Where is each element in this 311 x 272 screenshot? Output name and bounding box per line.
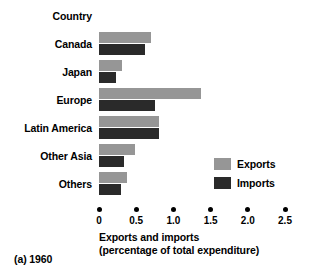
category-label-others: Others — [0, 179, 92, 190]
category-label-other-asia: Other Asia — [0, 151, 92, 162]
legend-label-imports: Imports — [237, 177, 275, 189]
bar-exports-other-asia — [99, 144, 135, 155]
x-axis-tick-label: 0.5 — [121, 215, 151, 227]
bar-exports-others — [99, 172, 127, 183]
x-axis-tick-dot — [245, 207, 250, 212]
legend-swatch-imports-icon — [214, 177, 231, 189]
bar-imports-latin-america — [99, 128, 159, 139]
x-axis-tick-dot — [208, 207, 213, 212]
x-axis-title: Exports and imports (percentage of total… — [99, 231, 309, 256]
chart-legend: Exports Imports — [214, 156, 275, 194]
x-axis-tick-label: 2.5 — [270, 215, 300, 227]
bar-imports-japan — [99, 72, 116, 83]
figure-caption: (a) 1960 — [14, 253, 52, 265]
bar-exports-latin-america — [99, 116, 159, 127]
axis-label-country: Country — [0, 11, 92, 22]
x-axis-title-line1: Exports and imports — [99, 231, 309, 244]
category-label-japan: Japan — [0, 67, 92, 78]
legend-item-imports: Imports — [214, 175, 275, 191]
x-axis-tick-dot — [134, 207, 139, 212]
x-axis-tick-label: 2.0 — [233, 215, 263, 227]
category-label-latin-america: Latin America — [0, 123, 92, 134]
x-axis-tick-label: 1.0 — [158, 215, 188, 227]
bar-exports-canada — [99, 32, 151, 43]
x-axis-tick-dot — [283, 207, 288, 212]
x-axis-title-line2: (percentage of total expenditure) — [99, 244, 309, 257]
x-axis-tick-label: 1.5 — [196, 215, 226, 227]
x-axis-tick-label: 0 — [84, 215, 114, 227]
bar-exports-europe — [99, 88, 201, 99]
legend-swatch-exports-icon — [214, 158, 231, 170]
legend-label-exports: Exports — [237, 158, 275, 170]
bar-imports-other-asia — [99, 156, 124, 167]
bar-imports-canada — [99, 44, 145, 55]
bar-imports-europe — [99, 100, 155, 111]
bar-exports-japan — [99, 60, 122, 71]
x-axis-tick-dot — [97, 207, 102, 212]
category-label-europe: Europe — [0, 95, 92, 106]
x-axis-tick-dot — [171, 207, 176, 212]
bar-imports-others — [99, 184, 121, 195]
bar-chart-figure: Country Canada Japan Europe Latin Americ… — [0, 0, 311, 272]
legend-item-exports: Exports — [214, 156, 275, 172]
category-label-canada: Canada — [0, 39, 92, 50]
